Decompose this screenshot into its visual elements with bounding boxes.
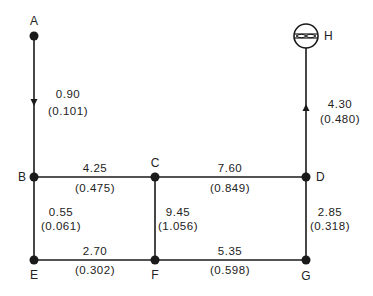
edge-value-b-c: 4.25 (83, 162, 107, 174)
node-label-g: G (301, 269, 310, 283)
node-label-e: E (30, 268, 38, 282)
edge-value-c-d: 7.60 (218, 162, 242, 174)
edge-subvalue-c-f: (1.056) (158, 220, 198, 232)
labels-layer: 0.90(0.101)4.25(0.475)7.60(0.849)0.55(0.… (18, 14, 360, 283)
edge-value-a-b: 0.90 (56, 88, 80, 100)
edge-subvalue-d-h: (0.480) (320, 113, 360, 125)
edge-subvalue-c-d: (0.849) (210, 182, 250, 194)
edge-subvalue-d-g: (0.318) (310, 220, 350, 232)
node-g-dot (302, 256, 311, 265)
node-label-c: C (151, 156, 160, 170)
node-d-dot (302, 173, 311, 182)
edge-subvalue-a-b: (0.101) (48, 105, 88, 117)
node-f-dot (151, 256, 160, 265)
node-label-d: D (316, 170, 325, 184)
edge-subvalue-b-c: (0.475) (75, 182, 115, 194)
node-label-a: A (30, 14, 38, 28)
fixture-h-icon (294, 24, 318, 48)
node-a-dot (30, 32, 39, 41)
node-c-dot (151, 173, 160, 182)
node-b-dot (30, 173, 39, 182)
node-e-dot (30, 256, 39, 265)
edge-value-d-g: 2.85 (318, 206, 342, 218)
pipe-network-diagram: 0.90(0.101)4.25(0.475)7.60(0.849)0.55(0.… (0, 0, 373, 296)
edge-value-e-f: 2.70 (83, 245, 107, 257)
node-label-h: H (324, 29, 333, 43)
edge-value-b-e: 0.55 (49, 206, 73, 218)
flow-arrow-up-icon (303, 104, 310, 111)
flow-arrow-down-icon (31, 99, 38, 106)
node-label-b: B (18, 170, 26, 184)
edge-subvalue-f-g: (0.598) (210, 264, 250, 276)
edge-subvalue-e-f: (0.302) (75, 264, 115, 276)
node-label-f: F (151, 268, 158, 282)
edge-value-d-h: 4.30 (328, 98, 352, 110)
edge-subvalue-b-e: (0.061) (41, 220, 81, 232)
edge-value-f-g: 5.35 (218, 245, 242, 257)
edge-value-c-f: 9.45 (166, 206, 190, 218)
